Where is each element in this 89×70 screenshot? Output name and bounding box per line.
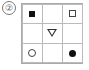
- grid-cell-r0c1: [42, 4, 63, 25]
- symbol-grid: [21, 3, 83, 64]
- grid-cell-r2c1: [42, 43, 63, 64]
- grid-cell-r0c0: [22, 4, 43, 25]
- grid-cell-r1c2: [62, 23, 83, 44]
- down-triangle-icon: [47, 29, 57, 37]
- option-number-label: ②: [2, 1, 16, 15]
- grid-cell-r1c0: [22, 23, 43, 44]
- empty-circle-icon: [28, 49, 36, 57]
- grid-cell-r2c2: [62, 43, 83, 64]
- grid-cell-r1c1: [42, 23, 63, 44]
- grid-cell-r0c2: [62, 4, 83, 25]
- empty-square-icon: [69, 10, 76, 17]
- filled-square-icon: [29, 11, 35, 17]
- grid-cell-r2c0: [22, 43, 43, 64]
- filled-circle-icon: [69, 50, 76, 57]
